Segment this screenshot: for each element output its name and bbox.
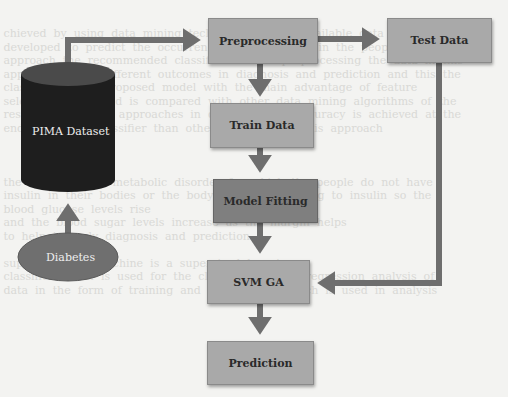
svm-ga-box: SVM GA [207, 260, 310, 304]
preprocessing-label: Preprocessing [219, 35, 307, 48]
pima-dataset-label: PIMA Dataset [32, 125, 109, 138]
model-fitting-box: Model Fitting [213, 179, 318, 223]
preprocessing-box: Preprocessing [208, 18, 318, 64]
test-data-label: Test Data [411, 34, 469, 47]
train-data-label: Train Data [229, 119, 294, 132]
train-data-box: Train Data [210, 103, 314, 148]
arrow-pima-to-preprocessing [68, 40, 196, 64]
test-data-box: Test Data [387, 18, 492, 63]
diabetes-label: Diabetes [46, 251, 95, 264]
model-fitting-label: Model Fitting [223, 195, 307, 208]
arrow-test-to-svm [322, 62, 439, 283]
prediction-box: Prediction [207, 341, 314, 385]
prediction-label: Prediction [228, 357, 292, 370]
svm-ga-label: SVM GA [233, 276, 283, 289]
